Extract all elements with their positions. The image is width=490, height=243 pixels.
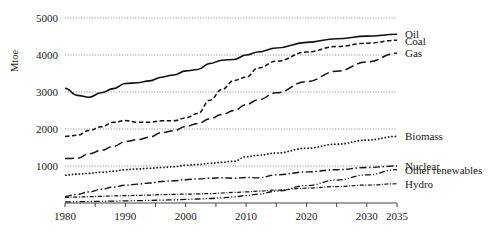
x-tick-label-1980: 1980 — [54, 210, 77, 222]
energy-demand-line-chart: 10002000300040005000 Mtoe 19801990200020… — [0, 0, 490, 243]
series-label-hydro: Hydro — [405, 178, 434, 190]
series-label-other-renewables: Other renewables — [405, 164, 482, 176]
series-label-coal: Coal — [405, 35, 426, 47]
series-label-biomass: Biomass — [405, 130, 443, 142]
series-line-nuclear — [65, 166, 397, 196]
series-label-gas: Gas — [405, 47, 422, 59]
y-axis-title-label: Mtoe — [9, 49, 20, 72]
y-tick-label-5000: 5000 — [36, 12, 59, 24]
series-line-oil — [65, 34, 397, 97]
data-series-lines — [65, 34, 397, 202]
x-tick-label-2010: 2010 — [235, 210, 258, 222]
y-tick-label-4000: 4000 — [36, 49, 59, 61]
y-axis-tick-labels: 10002000300040005000 — [36, 12, 59, 172]
series-inline-labels: OilCoalGasBiomassNuclearOther renewables… — [405, 28, 482, 189]
series-line-gas — [65, 53, 397, 158]
x-axis-tick-labels: 1980199020002010202020302035 — [54, 210, 409, 222]
x-tick-label-1990: 1990 — [114, 210, 137, 222]
gridlines — [65, 18, 397, 166]
y-tick-label-2000: 2000 — [36, 123, 59, 135]
chart-canvas: 10002000300040005000 Mtoe 19801990200020… — [0, 0, 490, 243]
x-tick-label-2030: 2030 — [356, 210, 379, 222]
series-line-hydro — [65, 184, 397, 198]
x-tick-label-2035: 2035 — [386, 210, 409, 222]
x-tick-label-2020: 2020 — [295, 210, 318, 222]
y-axis-title: Mtoe — [9, 49, 20, 72]
x-axis-tick-marks — [65, 203, 397, 207]
y-tick-label-3000: 3000 — [36, 86, 59, 98]
y-tick-label-1000: 1000 — [36, 160, 59, 172]
x-tick-label-2000: 2000 — [175, 210, 198, 222]
